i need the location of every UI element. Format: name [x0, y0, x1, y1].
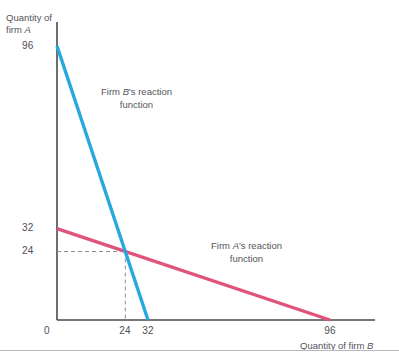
x-tick-label-32: 32 [134, 325, 162, 336]
y-axis-title-firm-a: A [24, 24, 30, 35]
firm-b-reaction-function-label: Firm B's reaction function [84, 86, 189, 111]
footer-divider [0, 350, 399, 351]
y-tick-label-24: 24 [22, 245, 52, 256]
x-tick-label-96: 96 [316, 325, 344, 336]
origin-tick-label: 0 [44, 325, 50, 336]
y-axis-title-line1: Quantity of [6, 12, 52, 23]
firm-b-label-suffix: 's reaction [129, 86, 172, 97]
firm-a-label-line2: function [230, 253, 263, 264]
firm-b-label-line2: function [120, 99, 153, 110]
firm-a-reaction-function-label: Firm A's reaction function [194, 240, 299, 265]
y-tick-label-96: 96 [22, 40, 52, 51]
firm-a-label-prefix: Firm [211, 240, 233, 251]
firm-a-label-suffix: 's reaction [239, 240, 282, 251]
cournot-reaction-functions-figure: Quantity of firm A Quantity of firm B 96… [0, 0, 399, 361]
chart-canvas [0, 0, 399, 361]
firm-b-label-prefix: Firm [101, 86, 123, 97]
y-axis-title: Quantity of firm A [6, 12, 52, 36]
y-tick-label-32: 32 [22, 222, 52, 233]
y-axis-title-line2-prefix: firm [6, 24, 24, 35]
